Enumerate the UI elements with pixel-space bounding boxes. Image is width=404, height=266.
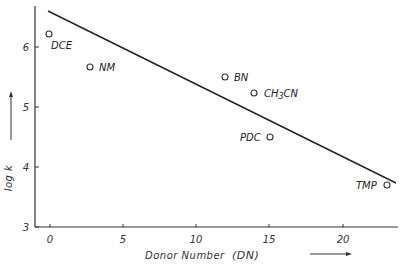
label-dce: DCE [51,40,73,51]
trend-line [48,11,396,183]
y-tick-label: 6 [23,42,29,53]
point-tmp [384,182,390,188]
x-axis-unit: (DN) [232,249,259,262]
label-bn: BN [234,72,249,83]
label-tmp: TMP [356,180,378,191]
point-dce [46,31,52,37]
scatter-chart: 3 4 5 6 0 5 10 15 20 Donor Number (DN) l… [0,0,404,266]
label-ch3cn: CH3CN [264,88,299,101]
y-tick-label: 5 [23,102,29,113]
x-tick-label: 5 [120,234,126,245]
point-pdc [267,134,273,140]
x-tick-label: 20 [337,234,350,245]
y-ticks: 3 4 5 6 [23,42,39,233]
point-ch3cn [251,90,257,96]
x-tick-label: 15 [263,234,276,245]
y-axis-title: log k [3,164,14,191]
x-axis-title: Donor Number [145,250,225,261]
point-bn [222,74,228,80]
label-pdc: PDC [240,132,261,143]
label-nm: NM [99,62,115,73]
point-nm [87,64,93,70]
x-axis-arrow-icon [310,252,352,256]
x-tick-label: 0 [47,234,53,245]
y-tick-label: 4 [23,162,29,173]
data-points [46,31,390,188]
y-tick-label: 3 [23,222,29,233]
y-axis-arrow-icon [9,91,13,140]
x-tick-label: 10 [190,234,203,245]
